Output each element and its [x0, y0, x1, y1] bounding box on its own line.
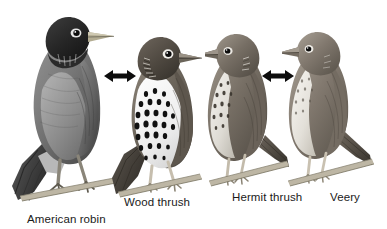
label-hermit-thrush: Hermit thrush	[232, 191, 302, 204]
bird-comparison-figure: American robin Wood thrush Hermit thrush…	[0, 0, 387, 229]
double-headed-arrow-icon	[262, 68, 294, 84]
double-headed-arrow-icon	[104, 68, 136, 84]
label-american-robin: American robin	[27, 213, 106, 226]
veery-illustration	[282, 25, 377, 190]
wood-thrush-illustration	[110, 28, 205, 198]
hermit-thrush-illustration	[205, 25, 290, 190]
label-veery: Veery	[330, 191, 360, 204]
american-robin-illustration	[2, 4, 122, 204]
label-wood-thrush: Wood thrush	[124, 196, 190, 209]
